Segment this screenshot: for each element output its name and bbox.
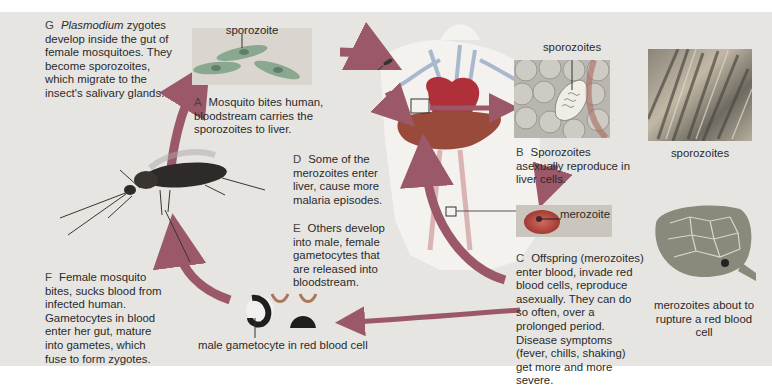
step-d-letter: D bbox=[293, 153, 301, 165]
mosquito-illustration bbox=[60, 152, 265, 262]
step-c-body: Offspring (merozoites) enter blood, inva… bbox=[516, 252, 644, 386]
step-g-italic: Plasmodium bbox=[61, 19, 124, 31]
step-f-body: Female mosquito bites, sucks blood from … bbox=[45, 271, 162, 365]
liver-cells-panel bbox=[514, 60, 610, 138]
male-gametocyte-label: male gametocyte in red blood cell bbox=[198, 339, 398, 353]
sporozoites-micrograph-label: sporozoites bbox=[660, 147, 740, 161]
step-g-text: GPlasmodium zygotes develop inside the g… bbox=[45, 19, 175, 101]
step-f-text: FFemale mosquito bites, sucks blood from… bbox=[45, 271, 163, 366]
sporozoites-micrograph bbox=[648, 49, 752, 141]
step-e-letter: E bbox=[293, 222, 301, 234]
merozoites-rupture-label: merozoites about to rupture a red blood … bbox=[652, 299, 756, 340]
step-d-text: DSome of the merozoites enter liver, cau… bbox=[293, 153, 385, 207]
step-e-body: Others develop into male, female gametoc… bbox=[293, 222, 385, 288]
arrow-mosquito-to-body bbox=[340, 52, 378, 58]
step-a-letter: A bbox=[194, 96, 202, 108]
arrow-C-to-E-gametocytes bbox=[350, 310, 520, 322]
step-a-text: AMosquito bites human, bloodstream carri… bbox=[194, 96, 344, 137]
sporozoites-liver-label: sporozoites bbox=[532, 41, 612, 55]
step-b-text: BSporozoites asexually reproduce in live… bbox=[516, 146, 634, 187]
step-e-text: EOthers develop into male, female gameto… bbox=[293, 222, 393, 290]
step-b-body: Sporozoites asexually reproduce in liver… bbox=[516, 146, 630, 185]
step-f-letter: F bbox=[45, 271, 52, 283]
gametocyte-cells bbox=[246, 294, 316, 338]
merozoites-rupture-image bbox=[650, 203, 756, 281]
merozoite-label: merozoite bbox=[560, 208, 616, 222]
step-b-letter: B bbox=[516, 146, 524, 158]
sporozoite-label: sporozoite bbox=[212, 24, 292, 38]
step-c-text: COffspring (merozoites) enter blood, inv… bbox=[516, 252, 644, 388]
step-d-body: Some of the merozoites enter liver, caus… bbox=[293, 153, 382, 206]
step-a-body: Mosquito bites human, bloodstream carrie… bbox=[194, 96, 323, 135]
step-c-letter: C bbox=[516, 252, 524, 264]
step-g-letter: G bbox=[45, 19, 54, 31]
